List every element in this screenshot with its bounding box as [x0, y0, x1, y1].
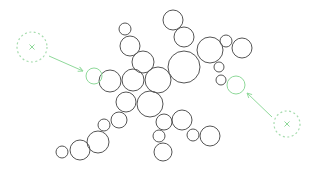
- left-endpoint[interactable]: [86, 68, 102, 84]
- left-arrow: [49, 56, 83, 71]
- node-circle[interactable]: [172, 110, 192, 130]
- node-circle[interactable]: [156, 114, 172, 130]
- node-circle[interactable]: [187, 129, 199, 141]
- node-circle[interactable]: [137, 91, 163, 117]
- node-circle[interactable]: [98, 119, 110, 131]
- node-circle[interactable]: [168, 51, 200, 83]
- node-circle[interactable]: [154, 143, 172, 161]
- diagram-canvas: [0, 0, 311, 172]
- node-circle[interactable]: [116, 92, 136, 112]
- node-circle[interactable]: [70, 140, 90, 160]
- node-circle[interactable]: [99, 70, 121, 92]
- node-circle[interactable]: [119, 23, 131, 35]
- node-circle[interactable]: [232, 38, 252, 58]
- node-cluster: [56, 10, 252, 161]
- node-circle[interactable]: [216, 75, 226, 85]
- arrow-group: [49, 56, 272, 117]
- right-arrow: [247, 93, 272, 117]
- node-circle[interactable]: [200, 126, 220, 146]
- node-circle[interactable]: [174, 27, 194, 47]
- right-endpoint[interactable]: [227, 76, 245, 94]
- right-target[interactable]: [274, 111, 300, 137]
- node-circle[interactable]: [153, 130, 165, 142]
- node-circle[interactable]: [111, 112, 127, 128]
- node-circle[interactable]: [214, 62, 224, 72]
- node-circle[interactable]: [220, 35, 232, 47]
- node-circle[interactable]: [145, 67, 171, 93]
- cross-icon: [30, 45, 35, 50]
- node-circle[interactable]: [122, 69, 144, 91]
- target-group: [17, 32, 300, 137]
- node-circle[interactable]: [197, 37, 223, 63]
- node-circle[interactable]: [56, 146, 68, 158]
- node-circle[interactable]: [163, 10, 183, 30]
- left-target[interactable]: [17, 32, 47, 62]
- cross-icon: [285, 122, 290, 127]
